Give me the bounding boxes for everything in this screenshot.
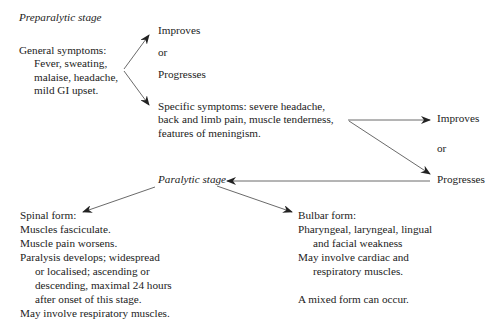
bulbar-form: Bulbar form: Pharyngeal, laryngeal, ling… bbox=[298, 208, 432, 306]
specific-symptoms: Specific symptoms: severe headache, back… bbox=[158, 100, 334, 140]
arrow-to-bulbar bbox=[217, 186, 292, 212]
spinal-line: May involve respiratory muscles. bbox=[20, 306, 172, 320]
general-symptoms: General symptoms: Fever, sweating, malai… bbox=[19, 44, 118, 98]
outcome2-or: or bbox=[437, 142, 446, 155]
bulbar-form-heading: Bulbar form: bbox=[298, 208, 432, 222]
spinal-line: or localised; ascending or bbox=[20, 264, 172, 278]
arrow-to-progresses-2 bbox=[349, 121, 430, 174]
specific-symptom-line: back and limb pain, muscle tenderness, bbox=[158, 113, 334, 126]
bulbar-line: Pharyngeal, laryngeal, lingual bbox=[298, 222, 432, 236]
general-symptom-line: malaise, headache, bbox=[19, 71, 118, 84]
mixed-form-note: A mixed form can occur. bbox=[298, 292, 432, 306]
spinal-line: after onset of this stage. bbox=[20, 292, 172, 306]
preparalytic-stage-title: Preparalytic stage bbox=[19, 11, 102, 24]
general-symptom-line: Fever, sweating, bbox=[19, 57, 118, 70]
spinal-line: Muscle pain worsens. bbox=[20, 236, 172, 250]
bulbar-line: May involve cardiac and bbox=[298, 250, 432, 264]
spinal-line: Muscles fasciculate. bbox=[20, 222, 172, 236]
bulbar-line: and facial weakness bbox=[298, 236, 432, 250]
specific-symptom-line: features of meningism. bbox=[158, 127, 334, 140]
specific-symptom-line: Specific symptoms: severe headache, bbox=[158, 100, 334, 113]
spinal-form: Spinal form: Muscles fasciculate. Muscle… bbox=[20, 208, 172, 320]
general-symptoms-heading: General symptoms: bbox=[19, 44, 118, 57]
outcome2-progresses: Progresses bbox=[437, 173, 485, 186]
arrow-to-specific bbox=[124, 71, 149, 105]
outcome1-progresses: Progresses bbox=[158, 68, 206, 81]
outcome2-improves: Improves bbox=[437, 112, 479, 125]
bulbar-line: respiratory muscles. bbox=[298, 264, 432, 278]
spinal-line: Paralysis develops; widespread bbox=[20, 250, 172, 264]
spinal-line: descending, maximal 24 hours bbox=[20, 278, 172, 292]
general-symptom-line: mild GI upset. bbox=[19, 84, 118, 97]
spinal-form-heading: Spinal form: bbox=[20, 208, 172, 222]
outcome1-or: or bbox=[158, 46, 167, 59]
paralytic-stage-title: Paralytic stage bbox=[158, 173, 226, 186]
outcome1-improves: Improves bbox=[158, 24, 200, 37]
arrow-to-improves-1 bbox=[124, 35, 149, 69]
